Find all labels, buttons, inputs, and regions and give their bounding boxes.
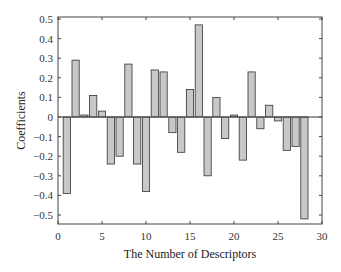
bar-descriptor-9 (134, 117, 141, 164)
bar-descriptor-27 (292, 117, 299, 146)
bar-descriptor-28 (301, 117, 308, 219)
x-tick-label: 25 (273, 230, 285, 242)
bar-descriptor-7 (116, 117, 123, 156)
bars-group (63, 25, 308, 219)
bar-descriptor-14 (178, 117, 185, 152)
y-tick-label: 0.2 (39, 72, 53, 84)
y-tick-label: −0.2 (33, 150, 53, 162)
bar-descriptor-22 (248, 72, 255, 117)
y-tick-label: 0.5 (39, 13, 53, 25)
bar-chart: 0510152025300.50.40.30.20.10−0.1−0.2−0.3… (0, 0, 341, 272)
bar-descriptor-24 (266, 105, 273, 117)
bar-descriptor-13 (169, 117, 176, 133)
bar-descriptor-17 (204, 117, 211, 176)
bar-descriptor-26 (283, 117, 290, 150)
x-tick-label: 5 (99, 230, 105, 242)
bar-descriptor-4 (90, 95, 97, 117)
bar-descriptor-5 (98, 111, 105, 117)
bar-descriptor-18 (213, 97, 220, 117)
x-tick-label: 15 (185, 230, 197, 242)
x-tick-label: 20 (229, 230, 241, 242)
bar-descriptor-8 (125, 64, 132, 117)
y-tick-label: 0 (48, 111, 54, 123)
bar-descriptor-15 (186, 90, 193, 117)
x-tick-label: 10 (141, 230, 153, 242)
y-axis-title: Coefficients (14, 91, 28, 150)
y-tick-label: 0.4 (39, 33, 53, 45)
bar-descriptor-21 (239, 117, 246, 160)
plot-frame (58, 17, 322, 224)
x-tick-label: 30 (317, 230, 329, 242)
bar-descriptor-16 (195, 25, 202, 117)
x-tick-label: 0 (55, 230, 61, 242)
y-tick-label: −0.5 (33, 209, 53, 221)
bar-descriptor-12 (160, 72, 167, 117)
bar-descriptor-19 (222, 117, 229, 139)
bar-descriptor-6 (107, 117, 114, 164)
bar-descriptor-11 (151, 70, 158, 117)
bar-descriptor-2 (72, 60, 79, 117)
bar-descriptor-10 (142, 117, 149, 191)
bar-descriptor-1 (63, 117, 70, 193)
y-tick-label: 0.1 (39, 91, 53, 103)
bar-descriptor-23 (257, 117, 264, 129)
bar-descriptor-25 (274, 117, 281, 121)
y-tick-label: 0.3 (39, 52, 53, 64)
x-axis-title: The Number of Descriptors (124, 247, 257, 261)
y-tick-label: −0.4 (33, 189, 53, 201)
y-tick-label: −0.3 (33, 170, 53, 182)
y-tick-label: −0.1 (33, 131, 53, 143)
